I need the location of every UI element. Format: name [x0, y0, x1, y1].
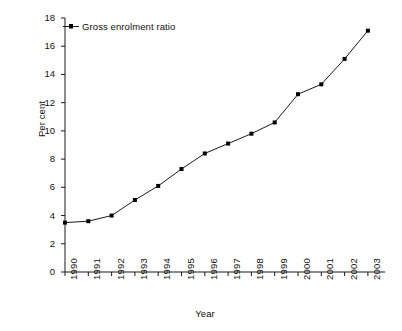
- y-tick-label: 0: [33, 267, 55, 277]
- data-point-marker: [226, 142, 230, 146]
- y-tick-label: 8: [33, 154, 55, 164]
- y-tick-label: 2: [33, 239, 55, 249]
- y-tick-label: 10: [33, 126, 55, 136]
- y-tick-label: 12: [33, 98, 55, 108]
- x-tick-label: 1996: [209, 258, 219, 280]
- data-point-marker: [249, 132, 253, 136]
- data-point-marker: [343, 57, 347, 61]
- data-point-marker: [63, 221, 67, 225]
- x-tick-label: 1999: [279, 258, 289, 280]
- data-point-marker: [110, 214, 114, 218]
- data-point-marker: [156, 184, 160, 188]
- data-point-marker: [273, 120, 277, 124]
- series-markers: [63, 29, 370, 225]
- chart-figure: Per cent Year Gross enrolment ratio 0246…: [0, 0, 402, 331]
- x-tick-label: 1994: [162, 258, 172, 280]
- data-point-marker: [180, 167, 184, 171]
- y-tick-label: 16: [33, 41, 55, 51]
- x-tick-label: 2001: [325, 258, 335, 280]
- series-line-gross-enrolment-ratio: [65, 31, 368, 223]
- data-point-marker: [133, 198, 137, 202]
- x-tick-label: 1998: [255, 258, 265, 280]
- x-tick-label: 1991: [92, 258, 102, 280]
- y-tick-label: 18: [33, 13, 55, 23]
- data-point-marker: [296, 92, 300, 96]
- y-tick-label: 14: [33, 69, 55, 79]
- x-tick-label: 1993: [139, 258, 149, 280]
- data-point-marker: [366, 29, 370, 33]
- x-tick-label: 1997: [232, 258, 242, 280]
- x-tick-label: 2000: [302, 258, 312, 280]
- y-tick-label: 6: [33, 182, 55, 192]
- x-tick-label: 2003: [372, 258, 382, 280]
- chart-canvas: [0, 0, 402, 331]
- y-axis-ticks: [61, 18, 65, 272]
- x-tick-label: 1990: [69, 258, 79, 280]
- x-tick-label: 1995: [186, 258, 196, 280]
- y-tick-label: 4: [33, 211, 55, 221]
- data-point-marker: [319, 82, 323, 86]
- data-point-marker: [203, 151, 207, 155]
- x-tick-label: 1992: [116, 258, 126, 280]
- x-tick-label: 2002: [349, 258, 359, 280]
- data-point-marker: [86, 219, 90, 223]
